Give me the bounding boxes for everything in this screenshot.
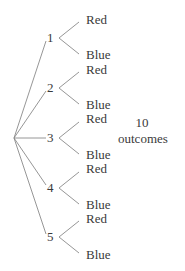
leaf-branches bbox=[59, 22, 79, 253]
leaf-label-red: Red bbox=[86, 212, 107, 225]
leaf-label-red: Red bbox=[86, 112, 107, 125]
root-branches bbox=[14, 41, 46, 234]
leaf-label-red: Red bbox=[86, 13, 107, 26]
leaf-branch-5-blue bbox=[59, 237, 79, 253]
leaf-label-blue: Blue bbox=[86, 98, 111, 111]
node-label-5: 5 bbox=[47, 230, 54, 243]
outcomes-count: 10 bbox=[118, 115, 166, 131]
root-branch-2 bbox=[14, 91, 46, 138]
leaf-label-red: Red bbox=[86, 63, 107, 76]
root-branch-1 bbox=[14, 41, 46, 138]
leaf-branch-4-red bbox=[59, 172, 79, 188]
root-branch-5 bbox=[14, 138, 46, 234]
node-label-1: 1 bbox=[47, 31, 54, 44]
leaf-branch-4-blue bbox=[59, 188, 79, 204]
leaf-branch-5-red bbox=[59, 221, 79, 237]
outcomes-label: outcomes bbox=[118, 131, 166, 147]
leaf-branch-3-red bbox=[59, 122, 79, 138]
leaf-label-blue: Blue bbox=[86, 48, 111, 61]
outcomes-summary: 10 outcomes bbox=[118, 115, 166, 147]
leaf-label-blue: Blue bbox=[86, 148, 111, 161]
leaf-branch-1-red bbox=[59, 22, 79, 38]
leaf-branch-3-blue bbox=[59, 138, 79, 154]
leaf-branch-2-red bbox=[59, 72, 79, 88]
leaf-branch-1-blue bbox=[59, 38, 79, 54]
leaf-branch-2-blue bbox=[59, 88, 79, 104]
node-label-2: 2 bbox=[47, 81, 54, 94]
root-branch-4 bbox=[14, 138, 46, 185]
node-label-4: 4 bbox=[47, 181, 54, 194]
leaf-label-blue: Blue bbox=[86, 248, 111, 261]
leaf-label-red: Red bbox=[86, 162, 107, 175]
leaf-label-blue: Blue bbox=[86, 198, 111, 211]
node-label-3: 3 bbox=[47, 131, 54, 144]
